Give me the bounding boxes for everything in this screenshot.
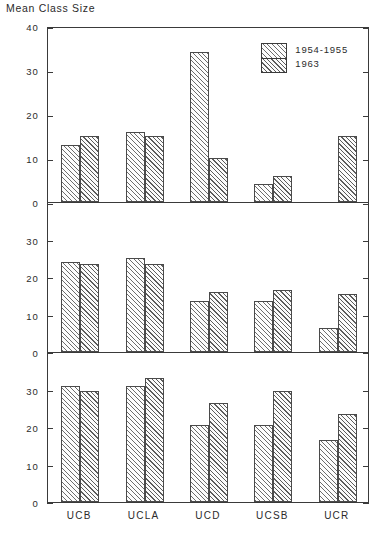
x-axis-label-UCD: UCD	[195, 510, 220, 521]
y-tick-right	[363, 160, 369, 161]
y-tick-left	[47, 116, 53, 117]
y-tick-label: 30	[5, 385, 39, 396]
bar-UCR-1954-1955	[319, 440, 338, 502]
bar-UCSB-1963	[273, 391, 292, 502]
bar-UCD-1954-1955	[190, 52, 209, 202]
bar-UCB-1963	[80, 264, 99, 352]
chart-panel-3	[47, 353, 369, 503]
figure-root: Mean Class Size 0102030401954-1955196301…	[0, 0, 389, 551]
plot-area-1: 1954-19551963	[48, 28, 368, 202]
bar-UCSB-1963	[273, 290, 292, 352]
y-tick-label: 20	[5, 273, 39, 284]
bar-UCB-1954-1955	[61, 262, 80, 352]
y-tick-right	[363, 316, 369, 317]
bar-UCD-1963	[209, 158, 228, 202]
y-tick-left	[47, 466, 53, 467]
y-tick-label: 0	[5, 498, 39, 509]
legend-label-1954-1955: 1954-1955	[295, 43, 348, 57]
chart-panel-1: 1954-19551963	[47, 27, 369, 203]
bar-UCSB-1954-1955	[254, 425, 273, 502]
y-tick-right	[363, 116, 369, 117]
legend: 1954-19551963	[261, 43, 348, 73]
y-tick-left	[47, 72, 53, 73]
y-tick-right	[363, 466, 369, 467]
bar-UCSB-1954-1955	[254, 301, 273, 352]
bar-UCD-1963	[209, 403, 228, 502]
y-tick-right	[363, 72, 369, 73]
bar-UCR-1954-1955	[319, 328, 338, 352]
y-tick-right	[363, 428, 369, 429]
x-axis-label-UCR: UCR	[324, 510, 349, 521]
y-tick-left	[47, 503, 53, 504]
legend-label-1963: 1963	[295, 57, 348, 71]
y-tick-label: 30	[5, 235, 39, 246]
chart-panel-2	[47, 203, 369, 353]
y-tick-label: 0	[5, 198, 39, 209]
bar-UCR-1963	[338, 294, 357, 352]
bar-UCD-1963	[209, 292, 228, 352]
y-tick-right	[363, 28, 369, 29]
y-tick-label: 10	[5, 310, 39, 321]
y-tick-label: 20	[5, 110, 39, 121]
bar-UCB-1963	[80, 391, 99, 502]
x-axis-label-UCB: UCB	[67, 510, 92, 521]
bar-UCB-1954-1955	[61, 386, 80, 502]
bar-UCSB-1954-1955	[254, 184, 273, 202]
y-tick-left	[47, 241, 53, 242]
bar-UCLA-1954-1955	[126, 132, 145, 202]
y-tick-label: 30	[5, 66, 39, 77]
y-tick-label: 40	[5, 22, 39, 33]
y-tick-label: 10	[5, 460, 39, 471]
plot-area-3	[48, 353, 368, 502]
bar-UCD-1954-1955	[190, 301, 209, 352]
bar-UCB-1954-1955	[61, 145, 80, 202]
bar-UCSB-1963	[273, 176, 292, 202]
y-tick-left	[47, 160, 53, 161]
page-title: Mean Class Size	[6, 2, 95, 14]
y-tick-right	[363, 503, 369, 504]
y-tick-left	[47, 316, 53, 317]
y-tick-left	[47, 278, 53, 279]
y-tick-right	[363, 278, 369, 279]
y-tick-label: 20	[5, 423, 39, 434]
y-tick-left	[47, 428, 53, 429]
panel-stack: 0102030401954-1955196301020300102030UCBU…	[47, 27, 369, 522]
y-tick-left	[47, 391, 53, 392]
legend-swatch-1954-1955	[262, 44, 286, 58]
bar-UCR-1963	[338, 414, 357, 502]
y-tick-right	[363, 391, 369, 392]
plot-area-2	[48, 203, 368, 352]
bar-UCLA-1954-1955	[126, 386, 145, 502]
bar-UCLA-1963	[145, 136, 164, 202]
bar-UCR-1963	[338, 136, 357, 202]
bar-UCLA-1963	[145, 378, 164, 502]
legend-labels: 1954-19551963	[295, 43, 348, 71]
y-tick-left	[47, 28, 53, 29]
bar-UCLA-1954-1955	[126, 258, 145, 352]
y-tick-right	[363, 241, 369, 242]
x-axis-label-UCSB: UCSB	[256, 510, 289, 521]
legend-swatch-1963	[262, 58, 286, 72]
bar-UCB-1963	[80, 136, 99, 202]
y-tick-label: 0	[5, 348, 39, 359]
y-tick-label: 10	[5, 154, 39, 165]
bar-UCD-1954-1955	[190, 425, 209, 502]
bar-UCLA-1963	[145, 264, 164, 352]
legend-swatches	[261, 43, 287, 73]
x-axis-label-UCLA: UCLA	[128, 510, 159, 521]
